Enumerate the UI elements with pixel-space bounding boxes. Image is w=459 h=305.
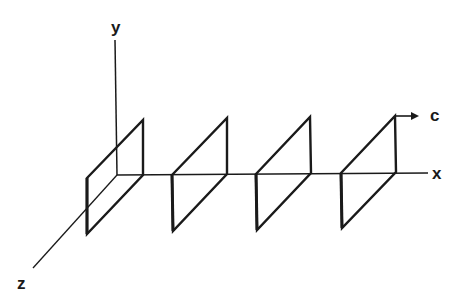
z-axis [33, 175, 117, 268]
y-axis-label: y [111, 18, 121, 37]
panel-4 [341, 116, 396, 228]
y-axis [115, 40, 117, 175]
z-axis-label: z [17, 274, 26, 293]
c-arrow-label: c [430, 106, 439, 125]
x-axis [117, 173, 428, 175]
x-axis-label: x [432, 164, 442, 183]
axes-panels-diagram: y z x c [0, 0, 459, 305]
